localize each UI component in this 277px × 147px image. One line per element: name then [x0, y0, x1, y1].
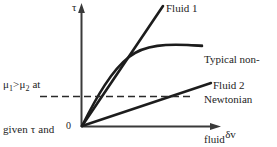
curve-label-fluid-1: Fluid 1 [166, 2, 197, 15]
curve-label-non-newtonian-line-3: fluid [204, 133, 260, 146]
annotation-line-1-suffix: at [32, 78, 40, 90]
curve-non-newtonian [82, 45, 202, 126]
y-axis-arrow-icon [78, 3, 85, 13]
curve-label-non-newtonian-line-1: Typical non- [204, 53, 260, 66]
y-axis-label: τ [72, 1, 76, 14]
figure-canvas: τ 0 δv δv Fluid 1 Typical non- Newtonian… [0, 0, 277, 147]
viscosity-annotation: μ1>μ2 at given τ and given temperature [3, 51, 57, 147]
annotation-line-2: given τ and [3, 123, 57, 137]
annotation-line-1: μ1>μ2 at [3, 78, 57, 96]
curve-label-non-newtonian-line-2: Newtonian [204, 93, 260, 106]
curve-fluid-1 [82, 6, 163, 126]
curve-label-fluid-2: Fluid 2 [213, 79, 244, 92]
annotation-mu-2-subscript: 2 [25, 84, 29, 93]
origin-label: 0 [66, 120, 71, 132]
leader-line-non-newtonian [186, 45, 203, 46]
